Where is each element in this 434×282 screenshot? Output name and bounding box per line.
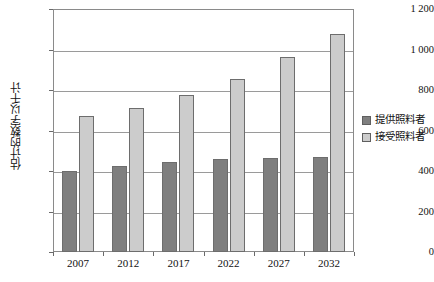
bar-2012-series1	[112, 166, 127, 252]
bar-2022-series1	[213, 159, 228, 252]
bar-2032-series1	[313, 157, 328, 252]
y-tick-label: 800	[386, 85, 434, 96]
legend-label: 提供照料者	[375, 115, 425, 126]
x-tick-mark	[103, 252, 104, 256]
y-tick-label: 1 000	[386, 44, 434, 55]
bar-2032-series2	[330, 34, 345, 252]
bar-2027-series2	[280, 57, 295, 252]
y-axis-title-text: 估计的数字以千计	[11, 82, 22, 170]
legend-item-1[interactable]: 提供照料者	[362, 112, 434, 129]
x-tick-mark	[354, 252, 355, 256]
bar-2012-series2	[129, 108, 144, 252]
x-tick-mark	[254, 252, 255, 256]
bar-2027-series1	[263, 158, 278, 252]
x-tick-label-2017: 2017	[167, 258, 189, 269]
bar-chart: 估计的数字以千计 02004006008001 0001 200 2007201…	[0, 0, 434, 282]
x-tick-mark	[153, 252, 154, 256]
x-tick-label-2007: 2007	[67, 258, 89, 269]
legend: 提供照料者接受照料者	[362, 112, 434, 146]
x-tick-label-2027: 2027	[268, 258, 290, 269]
bar-2017-series2	[179, 95, 194, 252]
x-tick-mark	[53, 252, 54, 256]
y-tick-label: 400	[386, 166, 434, 177]
bars-layer	[53, 9, 354, 252]
legend-swatch-icon	[362, 116, 371, 125]
bar-2007-series2	[79, 116, 94, 252]
x-tick-label-2022: 2022	[218, 258, 240, 269]
legend-label: 接受照料者	[375, 132, 425, 143]
y-tick-label: 0	[386, 247, 434, 258]
y-tick-label: 1 200	[386, 4, 434, 15]
x-tick-label-2012: 2012	[117, 258, 139, 269]
legend-swatch-icon	[362, 133, 371, 142]
bar-2022-series2	[230, 79, 245, 252]
x-tick-mark	[304, 252, 305, 256]
y-axis-title: 估计的数字以千计	[5, 0, 27, 252]
x-tick-mark	[204, 252, 205, 256]
bar-2007-series1	[62, 171, 77, 252]
x-tick-label-2032: 2032	[318, 258, 340, 269]
legend-item-2[interactable]: 接受照料者	[362, 129, 434, 146]
y-tick-label: 200	[386, 206, 434, 217]
bar-2017-series1	[162, 162, 177, 252]
